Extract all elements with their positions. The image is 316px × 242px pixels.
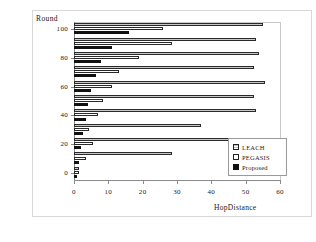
bar-proposed-round-30 <box>74 132 83 135</box>
x-tick-mark <box>177 181 178 184</box>
bar-leach-round-100 <box>74 23 263 26</box>
bar-proposed-round-10 <box>74 161 79 164</box>
bar-leach-round-90 <box>74 38 256 41</box>
x-tick-mark <box>280 181 281 184</box>
y-tick-label: 0 <box>42 169 68 177</box>
bar-pegasis-round-70 <box>74 70 119 73</box>
legend-swatch-proposed-icon <box>233 164 239 170</box>
bar-pegasis-round-30 <box>74 128 89 131</box>
bar-leach-round-10 <box>74 152 172 155</box>
legend-swatch-leach-icon <box>233 144 239 150</box>
bar-leach-round-70 <box>74 66 254 69</box>
chart-legend: LEACH PEGASIS Proposed <box>228 138 287 176</box>
bar-pegasis-round-50 <box>74 99 103 102</box>
chart-figure: Round HopDistance 020406080100 010203040… <box>0 0 316 242</box>
x-tick-label: 30 <box>166 188 188 196</box>
bar-pegasis-round-60 <box>74 85 112 88</box>
legend-item-proposed: Proposed <box>233 162 283 172</box>
bar-pegasis-round-90 <box>74 42 172 45</box>
bar-pegasis-round-10 <box>74 157 86 160</box>
bar-proposed-round-80 <box>74 60 101 63</box>
bar-leach-round-30 <box>74 124 201 127</box>
x-tick-label: 40 <box>200 188 222 196</box>
bar-proposed-round-90 <box>74 46 112 49</box>
y-tick-label: 60 <box>42 83 68 91</box>
bar-leach-round-50 <box>74 95 254 98</box>
bar-pegasis-round-100 <box>74 27 163 30</box>
x-tick-mark <box>211 181 212 184</box>
bar-proposed-round-40 <box>74 118 86 121</box>
y-tick-label: 80 <box>42 54 68 62</box>
y-axis-title: Round <box>36 14 58 23</box>
bar-leach-round-0 <box>74 167 79 170</box>
x-tick-mark <box>143 181 144 184</box>
bar-proposed-round-20 <box>74 146 81 149</box>
legend-item-pegasis: PEGASIS <box>233 152 283 162</box>
x-tick-label: 50 <box>235 188 257 196</box>
bar-pegasis-round-80 <box>74 56 139 59</box>
legend-label-pegasis: PEGASIS <box>242 154 270 161</box>
bar-pegasis-round-40 <box>74 113 98 116</box>
bar-proposed-round-50 <box>74 103 88 106</box>
x-axis-title: HopDistance <box>214 203 256 212</box>
bar-proposed-round-70 <box>74 74 96 77</box>
x-tick-mark <box>246 181 247 184</box>
x-tick-mark <box>108 181 109 184</box>
legend-swatch-pegasis-icon <box>233 154 239 160</box>
legend-label-proposed: Proposed <box>242 164 268 171</box>
bar-pegasis-round-0 <box>74 171 79 174</box>
legend-item-leach: LEACH <box>233 142 283 152</box>
x-tick-label: 10 <box>97 188 119 196</box>
bar-proposed-round-0 <box>74 175 77 178</box>
y-tick-label: 40 <box>42 111 68 119</box>
x-tick-mark <box>74 181 75 184</box>
y-tick-label: 100 <box>42 25 68 33</box>
bar-leach-round-40 <box>74 109 256 112</box>
bar-leach-round-60 <box>74 81 265 84</box>
x-tick-label: 20 <box>132 188 154 196</box>
bar-leach-round-20 <box>74 138 239 141</box>
x-tick-label: 0 <box>63 188 85 196</box>
legend-label-leach: LEACH <box>242 144 265 151</box>
x-tick-label: 60 <box>269 188 291 196</box>
bar-proposed-round-100 <box>74 31 129 34</box>
bar-pegasis-round-20 <box>74 142 93 145</box>
y-tick-label: 20 <box>42 140 68 148</box>
bar-proposed-round-60 <box>74 89 91 92</box>
bar-leach-round-80 <box>74 52 259 55</box>
